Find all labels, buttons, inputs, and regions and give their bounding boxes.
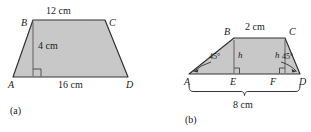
panel-a-measure-top-side: 12 cm [46, 6, 71, 16]
panel-b-vertex-label-C: C [289, 27, 296, 37]
panel-a-shape [13, 20, 128, 77]
geometry-figure-container: B C A D 12 cm 4 cm 16 cm (a) B C A E F D… [0, 0, 311, 132]
panel-b-measure-base-brace: 8 cm [233, 100, 253, 110]
panel-b-vertex-label-D: D [299, 77, 306, 87]
panel-b-shape [189, 38, 300, 96]
panel-b-measure-left-height: h [238, 51, 243, 60]
panel-b-caption: (b) [185, 115, 197, 125]
panel-a-measure-base-side: 16 cm [58, 80, 83, 90]
panel-b-vertex-label-A: A [184, 77, 190, 87]
panel-a-measure-height: 4 cm [38, 41, 58, 51]
panel-a-vertex-label-A: A [8, 80, 14, 90]
panel-b-angle-label-A: 45° [209, 53, 220, 61]
panel-a-caption: (a) [10, 106, 21, 116]
panel-a-vertex-label-B: B [21, 18, 27, 28]
panel-b-measure-right-height: h [275, 51, 280, 60]
panel-b-angle-label-D: 45° [282, 53, 293, 61]
panel-b-vertex-label-B: B [224, 27, 230, 37]
panel-a-vertex-label-D: D [126, 80, 133, 90]
panel-a-vertex-label-C: C [109, 18, 116, 28]
panel-b-vertex-label-E: E [230, 77, 236, 87]
trapezoid-a-polygon [13, 20, 128, 77]
base-brace [189, 85, 300, 96]
panel-b-vertex-label-F: F [270, 77, 276, 87]
figure-svg [0, 0, 311, 132]
panel-b-measure-top-side: 2 cm [245, 22, 265, 32]
